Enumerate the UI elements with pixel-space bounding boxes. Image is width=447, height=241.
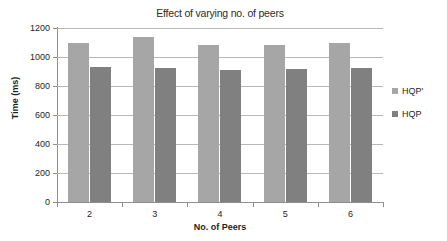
- bar: [133, 37, 154, 202]
- x-axis-ticks: [57, 202, 383, 207]
- bars-layer: [57, 28, 383, 202]
- bar: [264, 45, 285, 202]
- bar: [198, 45, 219, 202]
- y-tick-label: 600: [35, 110, 50, 120]
- chart-legend: HQP'HQP: [392, 86, 423, 132]
- y-axis-title: Time (ms): [10, 58, 20, 138]
- legend-swatch-icon: [392, 111, 398, 117]
- bar-group: [122, 28, 187, 202]
- x-tick-label: 4: [217, 209, 222, 219]
- x-tick-mark: [57, 202, 58, 207]
- y-tick-label: 800: [35, 81, 50, 91]
- bar: [329, 43, 350, 202]
- legend-swatch-icon: [392, 88, 398, 94]
- legend-label: HQP': [402, 86, 423, 96]
- x-tick-mark: [318, 202, 319, 207]
- x-tick-mark: [253, 202, 254, 207]
- plot-area: 120010008006004002000: [57, 28, 383, 202]
- x-tick-label: 2: [87, 209, 92, 219]
- legend-label: HQP: [402, 109, 422, 119]
- bar: [286, 69, 307, 202]
- y-tick-label: 200: [35, 168, 50, 178]
- bar-group: [253, 28, 318, 202]
- x-axis-tick-labels: 23456: [57, 209, 383, 223]
- bar-group: [318, 28, 383, 202]
- y-tick-label: 1200: [30, 23, 50, 33]
- x-tick-label: 5: [283, 209, 288, 219]
- bar-group: [57, 28, 122, 202]
- x-tick-mark: [187, 202, 188, 207]
- chart-title: Effect of varying no. of peers: [60, 7, 380, 19]
- bar: [220, 70, 241, 202]
- bar: [90, 67, 111, 202]
- legend-item[interactable]: HQP': [392, 86, 423, 96]
- x-tick-label: 6: [348, 209, 353, 219]
- bar: [351, 68, 372, 202]
- bar: [68, 43, 89, 202]
- x-axis-title: No. of Peers: [57, 222, 383, 232]
- y-tick-label: 400: [35, 139, 50, 149]
- x-tick-mark: [122, 202, 123, 207]
- bar-group: [187, 28, 252, 202]
- legend-item[interactable]: HQP: [392, 109, 423, 119]
- y-tick-label: 0: [45, 197, 50, 207]
- x-tick-label: 3: [152, 209, 157, 219]
- x-tick-mark: [383, 202, 384, 207]
- y-tick-label: 1000: [30, 52, 50, 62]
- bar-chart: Effect of varying no. of peers Time (ms)…: [0, 0, 447, 241]
- bar: [155, 68, 176, 202]
